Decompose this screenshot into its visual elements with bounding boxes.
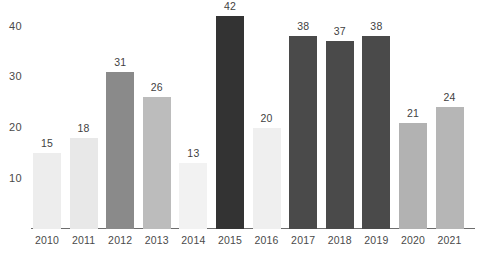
bar-value-label: 21 bbox=[393, 108, 433, 119]
bar-value-label: 38 bbox=[356, 21, 396, 32]
bar bbox=[326, 41, 354, 229]
bar bbox=[399, 123, 427, 229]
bar-value-label: 37 bbox=[320, 26, 360, 37]
y-axis-tick-label: 20 bbox=[9, 122, 35, 133]
bar-value-label: 42 bbox=[210, 1, 250, 12]
bar bbox=[289, 36, 317, 229]
bar bbox=[33, 153, 61, 229]
bar-value-label: 38 bbox=[283, 21, 323, 32]
bar-chart: 10203040 2010201120122013201420152016201… bbox=[0, 0, 480, 257]
bar bbox=[106, 72, 134, 229]
bar-value-label: 18 bbox=[64, 123, 104, 134]
bar bbox=[70, 138, 98, 229]
y-axis-tick-label: 30 bbox=[9, 71, 35, 82]
bar bbox=[253, 128, 281, 229]
bar-value-label: 15 bbox=[27, 138, 67, 149]
bar bbox=[362, 36, 390, 229]
bar-value-label: 20 bbox=[247, 113, 287, 124]
x-axis-tick-label: 2021 bbox=[428, 234, 472, 246]
y-axis-tick-label: 10 bbox=[9, 173, 35, 184]
bar bbox=[179, 163, 207, 229]
bar bbox=[436, 107, 464, 229]
y-axis-tick-label: 40 bbox=[9, 21, 35, 32]
bar-value-label: 31 bbox=[100, 57, 140, 68]
bar-value-label: 26 bbox=[137, 82, 177, 93]
bar bbox=[216, 16, 244, 229]
bar-value-label: 13 bbox=[173, 148, 213, 159]
bar-value-label: 24 bbox=[430, 92, 470, 103]
bar bbox=[143, 97, 171, 229]
